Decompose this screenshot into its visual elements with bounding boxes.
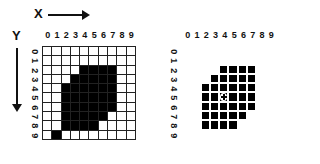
pixel-cell	[201, 120, 210, 129]
pixel-cell	[99, 131, 108, 140]
pixel-cell	[247, 83, 256, 92]
pixel-cell	[62, 66, 71, 75]
pixel-cell	[71, 131, 80, 140]
pixel-cell	[228, 92, 237, 101]
pixel-cell	[89, 112, 98, 121]
column-label: 4	[220, 30, 229, 40]
pixel-cell	[80, 75, 89, 84]
pixel-cell	[127, 75, 136, 84]
pixel-cell	[99, 112, 108, 121]
pixel-cell	[210, 102, 219, 111]
pixel-cell	[117, 103, 126, 112]
pixel-cell	[266, 130, 275, 139]
x-axis-arrow-icon	[48, 14, 88, 16]
pixel-cell	[228, 102, 237, 111]
pixel-cell	[80, 47, 89, 56]
pixel-cell	[266, 92, 275, 101]
pixel-cell	[89, 93, 98, 102]
pixel-cell	[182, 74, 191, 83]
pixel-cell	[247, 102, 256, 111]
pixel-cell	[43, 131, 52, 140]
pixel-cell	[71, 47, 80, 56]
pixel-cell	[62, 84, 71, 93]
pixel-cell	[219, 65, 228, 74]
pixel-cell	[201, 111, 210, 120]
column-label: 5	[229, 30, 238, 40]
pixel-cell	[117, 131, 126, 140]
pixel-cell	[266, 83, 275, 92]
pixel-cell	[256, 83, 265, 92]
pixel-cell	[228, 83, 237, 92]
pixel-cell	[52, 103, 61, 112]
pixel-cell	[80, 112, 89, 121]
pixel-cell	[182, 120, 191, 129]
pixel-cell	[127, 47, 136, 56]
pixel-cell	[191, 46, 200, 55]
pixel-cell	[247, 46, 256, 55]
pixel-cell	[52, 66, 61, 75]
pixel-cell	[99, 93, 108, 102]
pixel-cell	[89, 66, 98, 75]
pixel-cell	[247, 65, 256, 74]
pixel-cell	[266, 55, 275, 64]
right-pixel-grid	[182, 46, 275, 139]
pixel-cell	[219, 102, 228, 111]
pixel-cell	[62, 47, 71, 56]
pixel-cell	[238, 55, 247, 64]
pixel-cell	[43, 121, 52, 130]
pixel-cell	[52, 56, 61, 65]
pixel-cell	[256, 102, 265, 111]
pixel-cell	[117, 112, 126, 121]
pixel-cell	[127, 66, 136, 75]
pixel-cell	[71, 121, 80, 130]
pixel-cell	[219, 120, 228, 129]
pixel-cell	[256, 74, 265, 83]
pixel-cell	[182, 92, 191, 101]
pixel-cell	[256, 65, 265, 74]
column-label: 8	[117, 30, 126, 40]
pixel-cell	[117, 75, 126, 84]
column-label: 1	[192, 30, 201, 40]
row-label: 5	[168, 93, 177, 103]
pixel-cell	[52, 93, 61, 102]
pixel-cell	[62, 93, 71, 102]
row-label: 1	[168, 56, 177, 66]
pixel-cell	[127, 112, 136, 121]
pixel-cell	[99, 66, 108, 75]
right-row-labels: 0123456789	[168, 47, 178, 140]
pixel-cell	[43, 47, 52, 56]
pixel-cell	[228, 130, 237, 139]
pixel-cell	[219, 111, 228, 120]
pixel-cell	[117, 56, 126, 65]
pixel-cell	[219, 74, 228, 83]
pixel-cell	[238, 46, 247, 55]
pixel-cell	[247, 92, 256, 101]
pixel-cell	[238, 130, 247, 139]
pixel-cell	[43, 84, 52, 93]
pixel-cell	[210, 120, 219, 129]
pixel-cell	[201, 83, 210, 92]
pixel-cell	[247, 74, 256, 83]
pixel-cell	[210, 111, 219, 120]
pixel-cell	[89, 121, 98, 130]
pixel-cell	[256, 92, 265, 101]
pixel-cell	[117, 66, 126, 75]
pixel-cell	[80, 66, 89, 75]
pixel-cell	[71, 84, 80, 93]
pixel-cell	[127, 84, 136, 93]
pixel-cell	[266, 65, 275, 74]
pixel-cell	[108, 66, 117, 75]
pixel-cell	[210, 55, 219, 64]
pixel-cell	[89, 84, 98, 93]
pixel-cell	[52, 84, 61, 93]
pixel-cell	[219, 83, 228, 92]
pixel-cell	[238, 111, 247, 120]
pixel-cell	[247, 111, 256, 120]
pixel-cell	[256, 55, 265, 64]
pixel-cell	[89, 103, 98, 112]
column-label: 3	[211, 30, 220, 40]
x-axis-label: X	[34, 6, 43, 21]
pixel-cell	[238, 102, 247, 111]
pixel-cell	[62, 103, 71, 112]
left-pixel-grid	[42, 46, 136, 140]
